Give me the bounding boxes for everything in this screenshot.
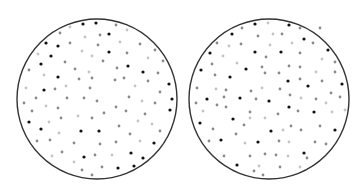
dot [215,88,218,91]
dot [141,70,144,73]
dot [99,143,102,146]
dot [91,55,94,58]
dot [119,41,122,44]
dot [265,56,268,59]
dot [264,72,267,75]
dot [253,50,256,53]
dot [299,27,302,30]
dot [261,66,264,69]
dot [152,141,155,144]
dot [249,117,252,120]
dot [314,141,317,144]
dot [321,80,324,83]
dot [269,129,272,132]
dot [208,51,211,54]
dot [236,62,239,65]
dot [306,157,309,160]
dot [170,97,173,100]
dot [258,165,261,168]
dot [43,74,46,77]
dot [269,44,272,47]
dot [111,154,114,157]
dot [287,23,290,26]
dot [94,21,97,24]
dot [65,85,68,88]
dot [48,121,51,124]
dot-circles-figure [0,0,362,193]
dot [126,64,129,67]
dot [66,97,69,100]
dot [257,35,260,38]
dot [225,106,228,109]
dot [250,90,253,93]
figure-canvas [0,0,362,193]
dot [129,133,132,136]
dot [118,125,121,128]
dot [334,61,337,64]
dot [81,22,84,25]
dot [277,113,280,116]
dot [115,141,118,144]
dot [49,54,52,57]
dot [216,42,219,45]
dot [302,37,305,40]
dot [31,110,34,113]
dot [319,125,322,128]
dot [81,50,84,53]
dot [139,140,142,143]
dot [36,140,39,143]
dot [73,161,76,164]
dot [315,71,318,74]
dot [230,32,233,35]
dot [228,75,231,78]
dot [279,50,282,53]
dot [299,78,302,81]
dot [240,43,243,46]
dot [114,79,117,82]
dot [78,78,81,81]
dot [167,82,170,85]
dot [91,174,94,177]
dot [126,29,129,32]
dot [60,117,63,120]
dot [96,100,99,103]
dot [299,52,302,55]
dot [116,67,119,70]
dot [235,163,238,166]
dot [123,77,126,80]
dot [101,166,104,169]
dot [54,88,57,91]
dot [315,98,318,101]
dot [261,87,264,90]
dot [25,87,28,90]
dot [272,33,275,36]
dot [134,85,137,88]
dot [325,102,328,105]
dot [290,125,293,128]
dot [243,124,246,127]
dot [267,99,270,102]
dot [23,102,26,105]
dot [103,112,106,115]
dot [79,129,82,132]
dot [299,66,302,69]
dot [326,48,329,51]
dot [281,33,284,36]
dot [157,72,160,75]
dot [212,128,215,131]
dot [99,34,102,37]
dot [154,49,157,52]
dot [300,97,303,100]
dot [132,164,135,167]
dot [116,166,119,169]
dot [27,120,30,123]
dot [147,80,150,83]
dot [51,155,54,158]
dot [88,71,91,74]
dot [196,87,199,90]
dot [235,133,238,136]
dot [321,58,324,61]
dot [159,91,162,94]
dot [91,117,94,120]
dot [61,151,64,154]
